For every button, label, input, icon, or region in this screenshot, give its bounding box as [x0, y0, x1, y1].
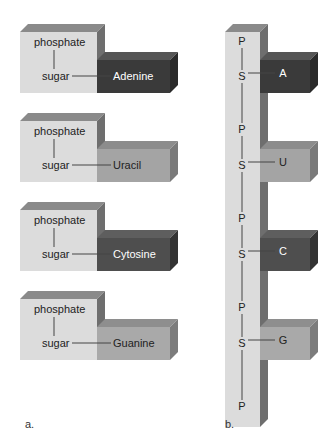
- base-letter: C: [279, 245, 287, 257]
- phosphate-symbol: P: [238, 212, 245, 224]
- base-label: Guanine: [113, 337, 155, 349]
- base-letter: U: [279, 156, 287, 168]
- sugar-label: sugar: [42, 70, 70, 82]
- base-letter: G: [279, 334, 288, 346]
- phosphate-label: phosphate: [34, 125, 85, 137]
- phosphate-label: phosphate: [34, 36, 85, 48]
- phosphate-symbol: P: [238, 123, 245, 135]
- sugar-symbol: S: [238, 159, 245, 171]
- base-label: Uracil: [113, 159, 141, 171]
- rna-structure-diagram: phosphatesugarAdeninephosphatesugarUraci…: [0, 0, 334, 436]
- sugar-phosphate-block: [20, 202, 105, 271]
- nucleotide-block: phosphatesugarUracil: [20, 113, 178, 182]
- sugar-label: sugar: [42, 159, 70, 171]
- phosphate-symbol: P: [238, 301, 245, 313]
- sugar-symbol: S: [238, 70, 245, 82]
- sugar-phosphate-block: [20, 24, 105, 93]
- phosphate-symbol: P: [238, 35, 245, 47]
- base-label: Adenine: [113, 70, 153, 82]
- nucleotide-block: phosphatesugarGuanine: [20, 291, 178, 360]
- sugar-symbol: S: [238, 248, 245, 260]
- phosphate-label: phosphate: [34, 303, 85, 315]
- sugar-phosphate-block: [20, 113, 105, 182]
- sugar-label: sugar: [42, 248, 70, 260]
- nucleotide-block: phosphatesugarCytosine: [20, 202, 178, 271]
- rna-strand: PSPSPSPSPAUCG: [225, 24, 318, 427]
- panel-a-label: a.: [25, 418, 34, 430]
- panel-b-label: b.: [225, 418, 234, 430]
- phosphate-symbol: P: [238, 400, 245, 412]
- phosphate-label: phosphate: [34, 214, 85, 226]
- sugar-symbol: S: [238, 337, 245, 349]
- nucleotide-block: phosphatesugarAdenine: [20, 24, 178, 93]
- sugar-label: sugar: [42, 337, 70, 349]
- base-letter: A: [279, 67, 287, 79]
- sugar-phosphate-block: [20, 291, 105, 360]
- base-label: Cytosine: [113, 248, 156, 260]
